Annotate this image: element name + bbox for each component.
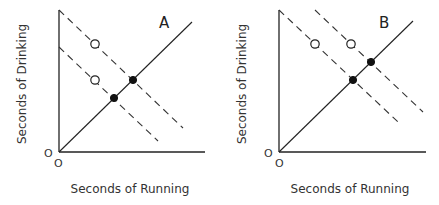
panel-a-x-axis-label: Seconds of Running: [71, 182, 190, 196]
panel-b-origin-y-zero: O: [264, 147, 273, 160]
panel-b-origin-x-zero: O: [275, 157, 284, 170]
panel-a-open-circle-upper: [91, 40, 99, 48]
panel-a-origin-x-zero: O: [54, 157, 63, 170]
panel-b-open-circle-outer: [347, 40, 355, 48]
panel-b-diagonal-line: [279, 21, 413, 152]
panel-a-label: A: [159, 14, 170, 32]
panel-a-diagonal-line: [59, 22, 192, 152]
panel-a-open-circle-lower: [91, 76, 99, 84]
panel-a: Seconds of Drinking A O O Seconds of Run…: [15, 10, 205, 196]
panel-b-label: B: [379, 14, 389, 32]
panel-b-y-axis-label: Seconds of Drinking: [235, 24, 249, 144]
panel-a-y-axis-label: Seconds of Drinking: [15, 24, 29, 144]
panel-b: Seconds of Drinking B O O Seconds of Run…: [235, 10, 426, 196]
panel-b-x-axis-label: Seconds of Running: [291, 182, 410, 196]
panel-b-filled-circle-outer: [367, 58, 374, 65]
panel-a-lower-dashed-line: [59, 47, 158, 141]
panel-b-filled-circle-inner: [349, 76, 356, 83]
panel-b-open-circle-inner: [311, 40, 319, 48]
panel-a-filled-circle-upper: [129, 76, 136, 83]
panel-a-origin-y-zero: O: [44, 147, 53, 160]
panel-a-filled-circle-lower: [110, 94, 117, 101]
figure-canvas: Seconds of Drinking A O O Seconds of Run…: [0, 0, 439, 205]
